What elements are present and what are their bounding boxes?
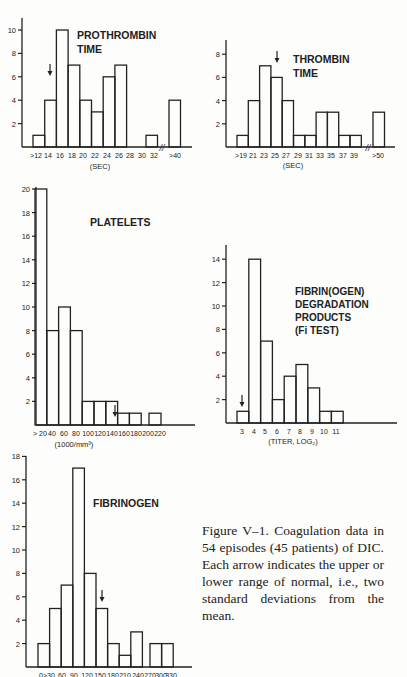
- x-tick-label: 160: [118, 430, 130, 437]
- x-tick-label: >19: [235, 152, 247, 159]
- x-axis-label: (TITER, LOG₂): [268, 437, 318, 446]
- x-tick-label: 14: [44, 152, 52, 159]
- chart-title: PROTHROMBIN: [77, 29, 156, 41]
- histogram-bar: [80, 100, 92, 147]
- x-tick-label: 3: [240, 428, 244, 435]
- x-tick-label: 10: [320, 428, 328, 435]
- histogram-bar: [119, 655, 131, 667]
- histogram-bar: [96, 609, 108, 668]
- chart-title: FIBRIN(OGEN): [295, 286, 364, 297]
- x-tick-label: 25: [271, 152, 279, 159]
- histogram-bar: [162, 644, 174, 667]
- histogram-bar: [33, 135, 45, 147]
- y-tick-label: 14: [22, 256, 30, 265]
- thrombin-time-chart: 2468>1921232527293133353739>50// THROMBI…: [200, 20, 407, 170]
- thrombin-histogram: 2468>1921232527293133353739>50// THROMBI…: [200, 20, 407, 170]
- histogram-bar: [249, 259, 261, 423]
- histogram-bar: [38, 644, 50, 667]
- x-axis-label: (1000/mm³): [55, 440, 94, 449]
- y-tick-label: 20: [22, 185, 30, 194]
- histogram-bar: [272, 400, 284, 423]
- histogram-bar: [237, 411, 249, 423]
- y-tick-label: 6: [16, 593, 20, 602]
- y-tick-label: 6: [12, 73, 16, 82]
- histogram-bar: [56, 30, 68, 147]
- histogram-bar: [327, 112, 338, 147]
- y-tick-label: 2: [12, 120, 16, 129]
- x-tick-label: 29: [294, 152, 302, 159]
- histogram-bar: [92, 112, 104, 147]
- x-tick-label: 24: [103, 152, 111, 159]
- histogram-bar: [261, 341, 273, 423]
- x-tick-label: > 20: [33, 430, 47, 437]
- x-tick-label: 26: [115, 152, 123, 159]
- y-tick-label: 14: [212, 255, 220, 264]
- histogram-bar: [320, 411, 332, 423]
- x-tick-label: 11: [332, 428, 339, 435]
- histogram-bar: [284, 376, 296, 423]
- histogram-bar: [70, 331, 82, 425]
- histogram-bar: [47, 331, 59, 425]
- y-tick-label: 8: [216, 50, 220, 59]
- histogram-bar: [94, 401, 106, 425]
- x-tick-label: 100: [82, 430, 94, 437]
- histogram-bar: [50, 609, 62, 668]
- y-tick-label: 6: [216, 349, 220, 358]
- fibrinogen-histogram: 246810121416180>306090120150180210240270…: [0, 450, 200, 677]
- histogram-bar: [115, 65, 127, 147]
- chart-title: PLATELETS: [90, 216, 150, 228]
- y-tick-label: 10: [12, 546, 20, 555]
- x-tick-label: 32: [150, 152, 158, 159]
- x-tick-label: 30: [138, 152, 146, 159]
- y-tick-label: 8: [16, 569, 20, 578]
- x-tick-label: 60: [58, 672, 66, 677]
- x-tick-label: 18: [68, 152, 76, 159]
- histogram-bar: [305, 135, 316, 147]
- y-tick-label: 10: [8, 26, 16, 35]
- y-tick-label: 4: [12, 96, 16, 105]
- histogram-bar: [118, 413, 130, 425]
- x-tick-label: 40: [48, 430, 56, 437]
- x-tick-label: 120: [94, 430, 106, 437]
- y-tick-label: 8: [12, 49, 16, 58]
- x-tick-label: 210: [119, 672, 131, 677]
- y-tick-label: 8: [26, 327, 30, 336]
- histogram-bar: [248, 101, 259, 147]
- histogram-bar: [84, 573, 96, 667]
- y-tick-label: 6: [216, 73, 220, 82]
- y-tick-label: 4: [216, 97, 220, 106]
- histogram-bar: [129, 413, 141, 425]
- y-tick-label: 16: [22, 232, 30, 241]
- x-tick-label: 0>30: [39, 672, 55, 677]
- histogram-bar: [296, 365, 308, 424]
- x-tick-label: 21: [249, 152, 257, 159]
- x-tick-label: 140: [106, 430, 118, 437]
- chart-title: TIME: [293, 67, 318, 79]
- axis-break-icon: //: [364, 143, 372, 153]
- axis-break-icon: //: [158, 143, 166, 153]
- x-tick-label: 20: [79, 152, 87, 159]
- histogram-bar: [350, 135, 361, 147]
- figure-caption: Figure V–1. Coagulation data in 54 episo…: [202, 522, 384, 624]
- histogram-bar: [169, 100, 181, 147]
- histogram-bar: [308, 388, 320, 423]
- histogram-bar: [108, 644, 120, 667]
- x-tick-label: 150: [94, 672, 106, 677]
- histogram-bar: [294, 135, 305, 147]
- fdp-chart: 246810121434567891011 FIBRIN(OGEN) DEGRA…: [215, 245, 407, 450]
- x-tick-label: >40: [169, 152, 181, 159]
- chart-title: PRODUCTS: [295, 312, 351, 323]
- x-tick-label: 240: [132, 672, 144, 677]
- y-tick-label: 18: [22, 209, 30, 218]
- histogram-bar: [339, 135, 350, 147]
- x-tick-label: 120: [81, 672, 93, 677]
- histogram-bar: [150, 644, 162, 667]
- x-tick-label: 23: [260, 152, 268, 159]
- x-tick-label: 60: [60, 430, 68, 437]
- x-tick-label: 6: [275, 428, 279, 435]
- x-tick-label: 39: [350, 152, 358, 159]
- chart-title: DEGRADATION: [295, 299, 369, 310]
- histogram-bar: [260, 66, 271, 147]
- y-tick-label: 16: [12, 476, 20, 485]
- histogram-bar: [331, 411, 343, 423]
